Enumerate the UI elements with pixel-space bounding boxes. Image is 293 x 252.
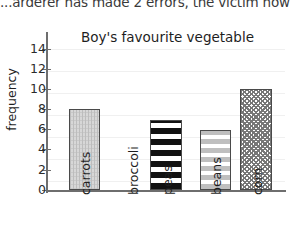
bar-chart-figure: Boy's favourite vegetable frequency 14 1… (0, 14, 293, 252)
cropped-body-text: ...arderer has made 2 errors, the victim… (0, 0, 293, 9)
x-label-peas: peas (160, 165, 175, 195)
x-label-beans: beans (209, 157, 224, 195)
y-tick-label-8: 8 (24, 103, 46, 116)
y-tick-label-2: 2 (24, 164, 46, 177)
x-label-corn: corn (250, 168, 265, 195)
y-tick-label-12: 12 (24, 63, 46, 76)
y-axis-ticks: 14 12 10 8 6 4 2 0 (0, 14, 46, 252)
y-tick-label-0: 0 (24, 184, 46, 197)
x-label-carrots: carrots (78, 152, 93, 195)
y-tick-label-10: 10 (24, 83, 46, 96)
x-label-broccoli: broccoli (126, 146, 141, 195)
y-tick-label-14: 14 (24, 43, 46, 56)
y-tick-label-4: 4 (24, 143, 46, 156)
y-tick-label-6: 6 (24, 123, 46, 136)
